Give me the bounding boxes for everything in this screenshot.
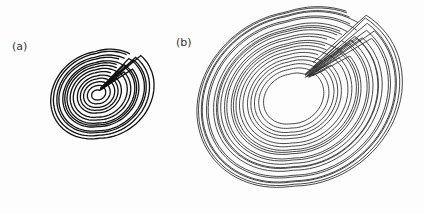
attractor-trajectory bbox=[92, 88, 106, 101]
panel-label-b: (b) bbox=[176, 36, 192, 49]
figure: (a) (b) bbox=[0, 0, 424, 214]
attractor-plots bbox=[0, 0, 424, 214]
attractor-a bbox=[51, 49, 154, 139]
attractor-trajectory bbox=[87, 85, 110, 104]
attractor-trajectory bbox=[264, 73, 324, 124]
panel-label-a: (a) bbox=[12, 40, 27, 53]
attractor-b bbox=[197, 7, 402, 188]
